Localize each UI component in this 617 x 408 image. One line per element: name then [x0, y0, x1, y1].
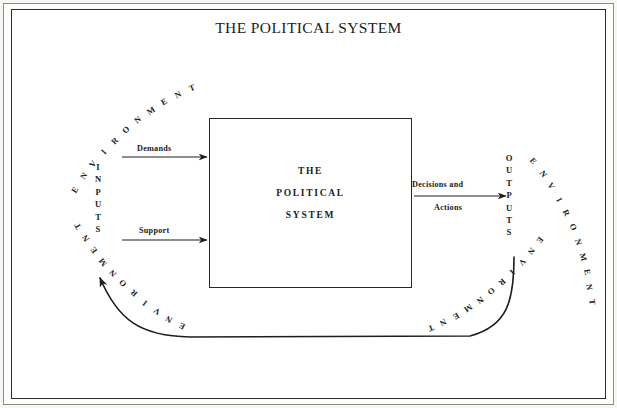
- stacked-letter-1: U: [501, 164, 517, 176]
- stacked-letter-3: U: [90, 198, 106, 210]
- stacked-letter-6: S: [501, 226, 517, 238]
- decisions-and-label: Decisions and: [412, 180, 463, 189]
- box-line-1: THE: [209, 160, 412, 182]
- stacked-letter-5: T: [501, 214, 517, 226]
- actions-label: Actions: [434, 203, 462, 212]
- diagram-title: THE POLITICAL SYSTEM: [0, 19, 617, 37]
- outputs-label: OUTPUTS: [501, 152, 517, 239]
- stacked-letter-1: N: [90, 173, 106, 185]
- stacked-letter-2: P: [90, 186, 106, 198]
- box-line-2: POLITICAL: [209, 182, 412, 204]
- box-line-3: SYSTEM: [209, 204, 412, 226]
- stacked-letter-0: O: [501, 152, 517, 164]
- inputs-label: INPUTS: [90, 161, 106, 235]
- arc-letter-10: T: [587, 299, 597, 306]
- arc-letter-9: N: [585, 283, 595, 290]
- stacked-letter-3: P: [501, 189, 517, 201]
- diagram-page: THE POLITICAL SYSTEM THE: [0, 0, 617, 408]
- stacked-letter-5: S: [90, 223, 106, 235]
- demands-label: Demands: [137, 144, 172, 153]
- support-label: Support: [139, 226, 169, 235]
- arc-letter-7: M: [577, 252, 588, 262]
- arc-letter-8: E: [582, 268, 592, 275]
- stacked-letter-2: T: [501, 177, 517, 189]
- stacked-letter-4: U: [501, 202, 517, 214]
- stacked-letter-4: T: [90, 211, 106, 223]
- political-system-box-label: THE POLITICAL SYSTEM: [209, 160, 412, 226]
